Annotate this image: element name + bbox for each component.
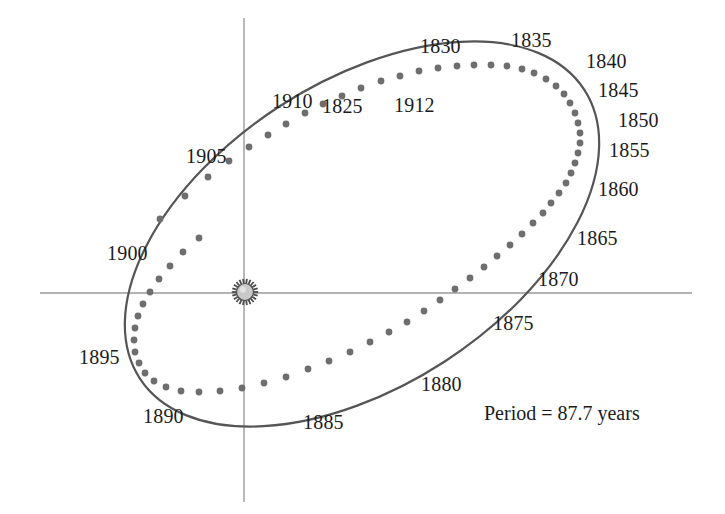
year-label-1910: 1910 [272, 91, 313, 111]
comet-position-dot [556, 190, 563, 197]
year-label-1860: 1860 [598, 179, 639, 199]
comet-position-dot [467, 275, 474, 282]
comet-position-dot [404, 319, 411, 326]
comet-position-dot [561, 91, 568, 98]
comet-position-dot [178, 388, 185, 395]
sun-ray [249, 300, 251, 304]
sun-ray [240, 300, 242, 304]
comet-position-dot [157, 216, 164, 223]
comet-position-dot [305, 366, 312, 373]
year-label-1835: 1835 [511, 30, 552, 50]
sun-ray [249, 280, 251, 284]
sun-ray [240, 280, 242, 284]
comet-position-dot [481, 264, 488, 271]
comet-position-dot [131, 337, 138, 344]
comet-position-dot [132, 325, 139, 332]
comet-position-dot [196, 389, 203, 396]
sun-highlight [240, 287, 246, 293]
comet-position-dot [416, 68, 423, 75]
comet-position-dot [519, 231, 526, 238]
sun-ray [253, 294, 257, 295]
comet-position-dot [246, 144, 253, 151]
comet-position-dot [386, 329, 393, 336]
comet-position-dot [358, 85, 365, 92]
year-label-1855: 1855 [609, 140, 650, 160]
sun-ray [252, 285, 256, 287]
year-label-1885: 1885 [303, 412, 344, 432]
comet-position-dot [577, 130, 584, 137]
sun-ray [252, 297, 256, 299]
orbit-figure: 1825183018351840184518501855186018651870… [0, 0, 725, 514]
sun-disc [237, 284, 254, 301]
comet-position-dot [205, 174, 212, 181]
year-label-1912: 1912 [394, 95, 435, 115]
comet-position-dot [530, 220, 537, 227]
comet-position-dot [397, 73, 404, 80]
comet-position-dot [577, 140, 584, 147]
comet-position-dot [261, 380, 268, 387]
sun-ray [232, 294, 236, 295]
sun-ray [251, 299, 254, 302]
comet-position-dot [504, 63, 511, 70]
comet-position-dot [182, 193, 189, 200]
comet-position-dot [367, 339, 374, 346]
comet-position-dot [142, 370, 149, 377]
comet-position-dot [140, 301, 147, 308]
comet-position-dot [437, 297, 444, 304]
comet-position-dot [543, 76, 550, 83]
period-annotation: Period = 87.7 years [484, 403, 640, 423]
comet-position-dot [147, 289, 154, 296]
sun-ray [236, 282, 239, 285]
comet-position-dot [553, 83, 560, 90]
sun-ray [251, 282, 254, 285]
comet-position-dot [531, 70, 538, 77]
comet-position-dot [568, 170, 575, 177]
comet-position-dot [156, 276, 163, 283]
year-label-1850: 1850 [618, 110, 659, 130]
sun-ray [253, 288, 257, 289]
comet-position-dot [572, 160, 579, 167]
sun-ray [232, 288, 236, 289]
comet-position-dot [452, 286, 459, 293]
orbit-ellipse-path [57, 0, 667, 506]
year-label-1900: 1900 [107, 243, 148, 263]
sun-ray [243, 279, 244, 284]
comet-position-dot [265, 132, 272, 139]
year-label-1845: 1845 [598, 80, 639, 100]
comet-position-dot [488, 62, 495, 69]
year-label-1905: 1905 [186, 146, 227, 166]
year-label-1890: 1890 [143, 406, 184, 426]
sun-ray [234, 285, 238, 287]
comet-position-dot [567, 100, 574, 107]
comet-position-dot [421, 308, 428, 315]
comet-position-dot [572, 110, 579, 117]
sun-ray [246, 301, 247, 306]
comet-position-dot [180, 249, 187, 256]
year-label-1875: 1875 [493, 313, 534, 333]
sun-ray [243, 301, 244, 306]
comet-position-dot [217, 388, 224, 395]
comet-position-dot [135, 313, 142, 320]
comet-position-dot [575, 150, 582, 157]
comet-position-dot [326, 358, 333, 365]
comet-position-dot [151, 378, 158, 385]
year-label-1830: 1830 [420, 36, 461, 56]
comet-position-dot [239, 385, 246, 392]
comet-position-dot [136, 360, 143, 367]
sun-ray [246, 279, 247, 284]
comet-position-dot [494, 253, 501, 260]
year-label-1880: 1880 [421, 374, 462, 394]
comet-position-dot [454, 63, 461, 70]
comet-position-dot [563, 180, 570, 187]
year-label-1865: 1865 [577, 228, 618, 248]
comet-position-dot [167, 263, 174, 270]
year-label-1825: 1825 [322, 96, 363, 116]
sun-ray [236, 299, 239, 302]
year-label-1895: 1895 [79, 347, 120, 367]
orbit-path-group [57, 0, 667, 506]
comet-position-dot [471, 62, 478, 69]
comet-position-dot [196, 235, 203, 242]
comet-position-dot [540, 210, 547, 217]
comet-position-dot [283, 121, 290, 128]
comet-position-dot [575, 120, 582, 127]
